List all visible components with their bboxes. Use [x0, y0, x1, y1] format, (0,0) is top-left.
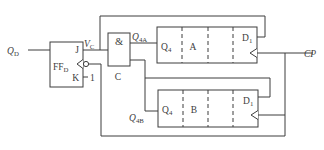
wire-q4b-to-and: [130, 60, 158, 111]
qd-input-label: QD: [7, 46, 19, 57]
wire-clock-distribution: [89, 53, 285, 136]
register-b-clock-triangle-icon: [251, 111, 258, 120]
cp-input-label: CP: [304, 49, 316, 59]
ffd-clock-edge-triangle-icon: [77, 60, 83, 69]
diagram-canvas: QD J FFD K 1 VC & C Q4A Q4B Q4 A D1 Q4 B…: [0, 0, 324, 150]
ffd-j-label: J: [75, 45, 79, 55]
diagram-linework: [28, 16, 313, 136]
register-a-d1-label: D1: [242, 33, 252, 44]
ffd-name-label: FFD: [53, 62, 69, 73]
register-a-clock-triangle-icon: [250, 49, 257, 58]
k-constant-label: 1: [90, 73, 95, 83]
and-gate-symbol: &: [115, 36, 123, 47]
register-a-name-label: A: [190, 42, 197, 52]
and-gate-name-label: C: [115, 72, 121, 82]
register-b-name-label: B: [191, 105, 197, 115]
ffd-k-label: K: [72, 73, 79, 83]
q4a-signal-label: Q4A: [132, 32, 147, 43]
wire-d1b-feedback: [145, 78, 270, 97]
q4b-signal-label: Q4B: [129, 113, 144, 124]
register-b-q4-label: Q4: [162, 105, 173, 116]
vc-signal-label: VC: [84, 39, 95, 50]
register-b-d1-label: D1: [243, 96, 253, 107]
logic-circuit-diagram: QD J FFD K 1 VC & C Q4A Q4B Q4 A D1 Q4 B…: [0, 0, 324, 150]
register-a-q4-label: Q4: [161, 42, 172, 53]
ffd-clock-inversion-bubble-icon: [83, 61, 88, 66]
